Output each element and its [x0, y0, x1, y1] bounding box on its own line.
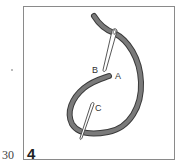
- label-b: B: [92, 65, 98, 75]
- stitch-diagram: B A C: [0, 0, 178, 166]
- label-c: C: [95, 103, 102, 113]
- needle-b: [103, 29, 117, 72]
- label-a: A: [115, 71, 121, 81]
- figure-number: 4: [27, 145, 35, 162]
